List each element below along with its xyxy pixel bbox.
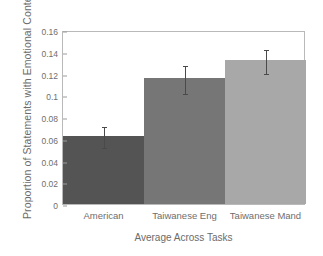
x-tick-label-taiwanese-eng: Taiwanese Eng — [152, 210, 216, 221]
error-bar-taiwanese-eng — [185, 66, 186, 94]
y-tick-mark — [63, 75, 67, 76]
error-bar-cap — [102, 148, 107, 149]
error-bar-cap — [183, 66, 188, 67]
bar-taiwanese-mand — [225, 60, 306, 204]
y-tick-mark — [63, 97, 67, 98]
y-tick-label: 0 — [53, 201, 63, 211]
error-bar-cap — [264, 74, 269, 75]
error-bar-cap — [183, 94, 188, 95]
plot-area: 00.020.040.060.080.10.120.140.16 America… — [62, 31, 305, 205]
y-tick-label: 0.16 — [41, 27, 63, 37]
error-bar-cap — [264, 50, 269, 51]
y-tick-label: 0.08 — [41, 114, 63, 124]
y-tick-label: 0.06 — [41, 136, 63, 146]
x-axis-title: Average Across Tasks — [62, 232, 305, 243]
bar-series — [63, 32, 304, 204]
y-tick-label: 0.02 — [41, 179, 63, 189]
y-tick-mark — [63, 162, 67, 163]
x-tick-label-american: American — [83, 210, 123, 221]
y-tick-mark — [63, 53, 67, 54]
error-bar-cap — [102, 127, 107, 128]
error-bar-taiwanese-mand — [266, 50, 267, 74]
error-bar-american — [104, 127, 105, 149]
y-tick-label: 0.1 — [46, 92, 63, 102]
y-tick-mark — [63, 206, 67, 207]
y-tick-mark — [63, 119, 67, 120]
y-tick-label: 0.14 — [41, 49, 63, 59]
y-tick-mark — [63, 184, 67, 185]
y-tick-mark — [63, 140, 67, 141]
chart-figure: Proportion of Statements with Emotional … — [0, 0, 323, 256]
y-tick-label: 0.12 — [41, 71, 63, 81]
y-axis-title: Proportion of Statements with Emotional … — [21, 9, 33, 219]
x-tick-label-taiwanese-mand: Taiwanese Mand — [230, 210, 301, 221]
y-tick-mark — [63, 32, 67, 33]
bar-taiwanese-eng — [144, 78, 225, 204]
y-tick-label: 0.04 — [41, 158, 63, 168]
